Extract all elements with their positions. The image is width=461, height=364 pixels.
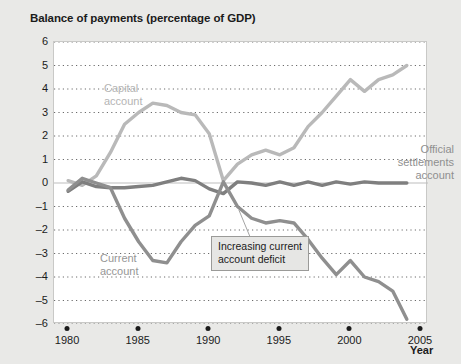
y-axis-tick-label: –1 (2, 200, 48, 212)
x-axis-tick-label: 2000 (337, 334, 361, 346)
series-label-official-line3: account (366, 169, 454, 182)
x-axis-tick-label: 1990 (196, 334, 220, 346)
y-axis-tick-label: 0 (2, 176, 48, 188)
y-axis-tick-label: 4 (2, 82, 48, 94)
y-axis-tick-label: 5 (2, 59, 48, 71)
series-line (68, 178, 407, 193)
y-axis-tick-label: 3 (2, 106, 48, 118)
series-label-official-line1: Official (366, 143, 454, 156)
y-axis: 6543210–1–2–3–4–5–6 (0, 41, 48, 323)
x-axis-tick-label: 1980 (55, 334, 79, 346)
x-axis-tick-dot (276, 326, 281, 331)
page-title: Balance of payments (percentage of GDP) (30, 12, 256, 24)
annotation-increasing-current-account-deficit: Increasing current account deficit (211, 236, 309, 271)
y-axis-tick-label: –5 (2, 294, 48, 306)
series-label-current-account: Current account (100, 252, 139, 278)
x-axis-tick-dot (206, 326, 211, 331)
series-label-current-line1: Current (100, 252, 139, 265)
y-axis-tick-label: 1 (2, 153, 48, 165)
y-axis-tick-label: 6 (2, 35, 48, 47)
series-label-capital-line1: Capital (104, 82, 143, 95)
y-axis-tick-label: –3 (2, 247, 48, 259)
y-axis-tick-label: –4 (2, 270, 48, 282)
y-axis-tick-label: 2 (2, 129, 48, 141)
x-axis-tick-label: 1985 (125, 334, 149, 346)
x-axis-tick-dot (347, 326, 352, 331)
annotation-line2: account deficit (218, 253, 302, 266)
series-label-capital-line2: account (104, 95, 143, 108)
series-label-official-settlements-account: Official settlements account (366, 143, 454, 182)
annotation-line1: Increasing current (218, 240, 302, 253)
x-axis-tick-dot (135, 326, 140, 331)
series-label-capital-account: Capital account (104, 82, 143, 108)
y-axis-tick-label: –6 (2, 317, 48, 329)
y-axis-tick-label: –2 (2, 223, 48, 235)
x-axis: 198019851990199520002005 (53, 323, 427, 347)
x-axis-tick-dot (417, 326, 422, 331)
x-axis-tick-label: 1995 (267, 334, 291, 346)
x-axis-title: Year (410, 344, 433, 356)
series-label-current-line2: account (100, 265, 139, 278)
series-label-official-line2: settlements (366, 156, 454, 169)
chart-figure: Balance of payments (percentage of GDP) … (0, 0, 461, 364)
x-axis-tick-dot (65, 326, 70, 331)
